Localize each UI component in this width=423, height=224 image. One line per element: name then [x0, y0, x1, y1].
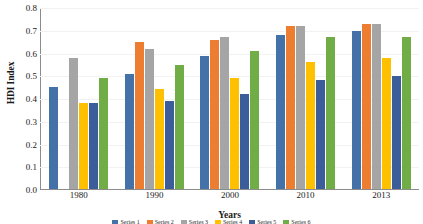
- bar: [316, 80, 325, 189]
- bar: [362, 24, 371, 189]
- bar: [382, 58, 391, 189]
- legend-item[interactable]: Series 3: [181, 220, 208, 224]
- bar: [306, 62, 315, 189]
- legend-item[interactable]: Series 6: [283, 220, 310, 224]
- x-tick-label: 2000: [192, 191, 268, 200]
- y-tick-label: 0.1: [26, 163, 37, 172]
- legend-swatch: [147, 220, 153, 224]
- bar: [210, 40, 219, 189]
- legend-label: Series 3: [189, 220, 208, 224]
- bar: [49, 87, 58, 189]
- plot-area: 0.00.10.20.30.40.50.60.70.8 198019902000…: [40, 8, 419, 190]
- bar: [352, 31, 361, 189]
- bar: [250, 51, 259, 189]
- x-tick-label: 1990: [117, 191, 193, 200]
- x-tick-label: 2010: [268, 191, 344, 200]
- x-tick-label: 1980: [41, 191, 117, 200]
- y-tick-label: 0.8: [26, 4, 37, 13]
- bar: [135, 42, 144, 189]
- bar-group: 2010: [268, 8, 344, 189]
- legend-label: Series 6: [291, 220, 310, 224]
- bar: [175, 65, 184, 189]
- bar: [200, 56, 209, 189]
- legend-swatch: [283, 220, 289, 224]
- legend-swatch: [181, 220, 187, 224]
- bar: [125, 74, 134, 189]
- bar: [99, 78, 108, 189]
- legend-item[interactable]: Series 1: [112, 220, 139, 224]
- y-axis-title: HDI Index: [6, 45, 16, 121]
- bar-groups: 19801990200020102013: [41, 8, 419, 189]
- bar-group: 2000: [192, 8, 268, 189]
- bar: [79, 103, 88, 189]
- hdi-index-bar-chart: HDI Index 0.00.10.20.30.40.50.60.70.8 19…: [0, 0, 423, 224]
- bar: [155, 89, 164, 189]
- legend-item[interactable]: Series 5: [249, 220, 276, 224]
- bar: [220, 37, 229, 189]
- legend-label: Series 1: [120, 220, 139, 224]
- bar: [296, 26, 305, 189]
- bar: [69, 58, 78, 189]
- legend-swatch: [215, 220, 221, 224]
- bar-group: 1990: [117, 8, 193, 189]
- bar: [372, 24, 381, 189]
- y-tick-label: 0.2: [26, 140, 37, 149]
- bar-group: 1980: [41, 8, 117, 189]
- bar: [240, 94, 249, 189]
- legend-swatch: [112, 220, 118, 224]
- legend-item[interactable]: Series 2: [147, 220, 174, 224]
- y-tick-label: 0.3: [26, 117, 37, 126]
- y-tick-label: 0.5: [26, 72, 37, 81]
- y-tick-label: 0.6: [26, 49, 37, 58]
- bar: [230, 78, 239, 189]
- legend-item[interactable]: Series 4: [215, 220, 242, 224]
- bar: [276, 35, 285, 189]
- y-tick-label: 0.4: [26, 95, 37, 104]
- y-tick-label: 0.7: [26, 26, 37, 35]
- legend-swatch: [249, 220, 255, 224]
- x-tick-label: 2013: [343, 191, 419, 200]
- bar: [326, 37, 335, 189]
- bar: [165, 101, 174, 189]
- bar: [286, 26, 295, 189]
- bar: [392, 76, 401, 189]
- bar: [145, 49, 154, 189]
- legend-label: Series 5: [257, 220, 276, 224]
- bar-group: 2013: [343, 8, 419, 189]
- y-tick-label: 0.0: [26, 186, 37, 195]
- bar: [89, 103, 98, 189]
- bar: [402, 37, 411, 189]
- legend-label: Series 4: [223, 220, 242, 224]
- legend-label: Series 2: [155, 220, 174, 224]
- chart-legend: Series 1Series 2Series 3Series 4Series 5…: [6, 220, 417, 224]
